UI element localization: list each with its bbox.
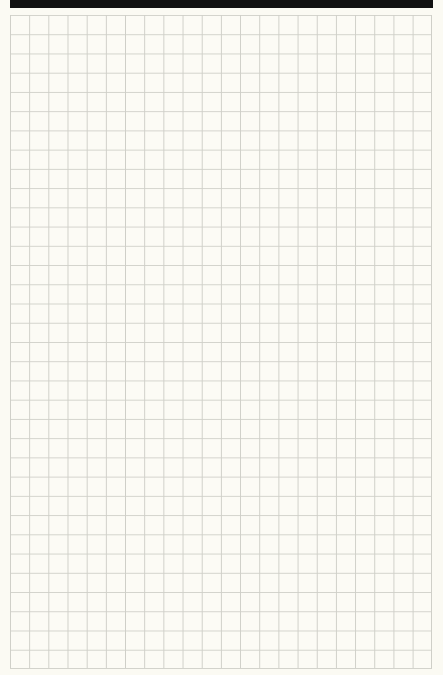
top-binding-bar bbox=[10, 0, 433, 8]
grid-paper-sheet bbox=[10, 15, 432, 669]
